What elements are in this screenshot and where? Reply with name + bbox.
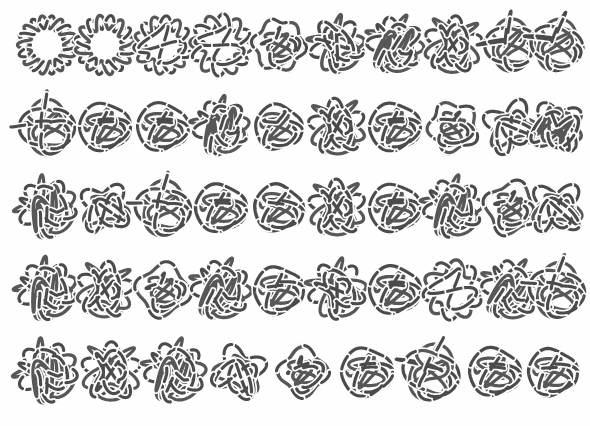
knot-canvas [247, 13, 311, 77]
knot-diagram [335, 340, 399, 404]
knot-canvas [525, 258, 589, 322]
knot-diagram [247, 95, 311, 159]
knot-canvas [363, 176, 427, 240]
knot-canvas [73, 258, 137, 322]
knot-canvas [247, 258, 311, 322]
knot-canvas [271, 340, 335, 404]
knot-diagram [247, 258, 311, 322]
knot-diagram [305, 176, 369, 240]
knot-diagram [247, 13, 311, 77]
knot-canvas [15, 13, 79, 77]
knot-diagram [525, 258, 589, 322]
knot-canvas [421, 176, 485, 240]
knot-diagram [399, 340, 463, 404]
knot-diagram [15, 340, 79, 404]
knot-diagram [271, 340, 335, 404]
knot-canvas [15, 258, 79, 322]
knot-canvas [143, 340, 207, 404]
knot-canvas [363, 95, 427, 159]
knot-canvas [399, 340, 463, 404]
knot-diagram [189, 176, 253, 240]
knot-diagram [131, 13, 195, 77]
knot-diagram [305, 13, 369, 77]
knot-canvas [305, 13, 369, 77]
knot-diagram [525, 13, 589, 77]
knot-canvas [131, 95, 195, 159]
knot-diagram [189, 258, 253, 322]
knot-diagram [15, 258, 79, 322]
knot-diagram [305, 95, 369, 159]
knot-canvas [525, 95, 589, 159]
knot-diagram [363, 95, 427, 159]
knot-canvas [15, 176, 79, 240]
knot-diagram [525, 176, 589, 240]
knot-diagram [15, 176, 79, 240]
knot-canvas [73, 176, 137, 240]
knot-diagram [189, 95, 253, 159]
knot-diagram [131, 95, 195, 159]
knot-diagram [247, 176, 311, 240]
knot-diagram [131, 258, 195, 322]
knot-canvas [73, 95, 137, 159]
knot-diagram [521, 340, 585, 404]
knot-diagram [131, 176, 195, 240]
knot-diagram [525, 95, 589, 159]
knot-canvas [189, 176, 253, 240]
knot-canvas [305, 95, 369, 159]
knot-canvas [15, 95, 79, 159]
knot-canvas [131, 13, 195, 77]
knot-diagram [15, 95, 79, 159]
knot-canvas [421, 95, 485, 159]
knot-diagram [421, 95, 485, 159]
knot-diagram [189, 13, 253, 77]
knot-diagram [73, 95, 137, 159]
knot-diagram [363, 176, 427, 240]
knot-canvas [207, 340, 271, 404]
knot-diagram [421, 176, 485, 240]
knot-diagram [15, 13, 79, 77]
knot-canvas [525, 13, 589, 77]
knot-canvas [79, 340, 143, 404]
knot-canvas [525, 176, 589, 240]
knot-diagram [73, 176, 137, 240]
figure-caption-area [0, 398, 590, 426]
knot-diagram [143, 340, 207, 404]
knot-canvas [189, 13, 253, 77]
knot-diagram [207, 340, 271, 404]
knot-canvas [521, 340, 585, 404]
knot-canvas [247, 95, 311, 159]
knot-canvas [305, 176, 369, 240]
knot-grid [0, 0, 590, 426]
knot-canvas [363, 13, 427, 77]
knot-canvas [421, 258, 485, 322]
knot-canvas [335, 340, 399, 404]
knot-diagram [305, 258, 369, 322]
knot-canvas [247, 176, 311, 240]
knot-diagram [79, 340, 143, 404]
knot-diagram [463, 340, 527, 404]
knot-canvas [305, 258, 369, 322]
knot-canvas [73, 13, 137, 77]
knot-canvas [363, 258, 427, 322]
knot-canvas [131, 176, 195, 240]
knot-canvas [463, 340, 527, 404]
knot-diagram [363, 13, 427, 77]
knot-canvas [189, 258, 253, 322]
knot-canvas [131, 258, 195, 322]
knot-diagram [421, 258, 485, 322]
knot-diagram [73, 13, 137, 77]
knot-diagram [73, 258, 137, 322]
knot-canvas [189, 95, 253, 159]
knot-canvas [15, 340, 79, 404]
knot-table-figure [0, 0, 590, 426]
knot-diagram [363, 258, 427, 322]
